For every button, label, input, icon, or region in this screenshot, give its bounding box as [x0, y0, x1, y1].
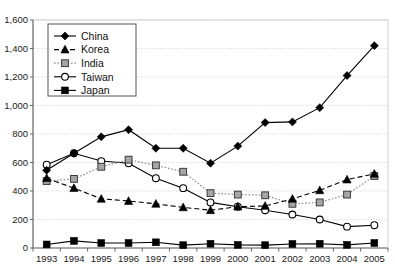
data-point-taiwan-2004	[344, 223, 351, 230]
legend-label-china: China	[81, 30, 109, 42]
data-point-japan-1999	[207, 240, 214, 247]
data-point-india-2000	[234, 191, 241, 198]
y-axis-tick-label: 600	[12, 157, 28, 168]
data-point-india-1997	[152, 162, 159, 169]
data-point-china-1999	[207, 159, 215, 167]
data-point-india-1995	[98, 163, 105, 170]
legend-marker-india	[62, 60, 69, 67]
x-axis-tick-label: 1993	[36, 253, 57, 264]
data-point-china-1997	[152, 144, 160, 152]
y-axis-tick-label: 0	[23, 242, 28, 253]
y-axis-tick-label: 200	[12, 214, 28, 225]
data-point-korea-2002	[288, 195, 296, 203]
legend-marker-japan	[62, 87, 69, 94]
data-point-taiwan-2003	[316, 216, 323, 223]
series-japan	[43, 237, 377, 248]
y-axis-tick-label: 1,400	[4, 43, 28, 54]
y-axis-tick-label: 400	[12, 185, 28, 196]
data-point-taiwan-2002	[289, 211, 296, 218]
x-axis-tick-label: 1996	[118, 253, 139, 264]
data-point-japan-2001	[262, 242, 269, 249]
x-axis-tick-label: 1999	[200, 253, 221, 264]
data-point-korea-1995	[97, 195, 105, 203]
data-point-japan-2000	[234, 241, 241, 248]
x-axis-ticks: 1993199419951996199719981999200020012002…	[33, 248, 388, 264]
data-point-korea-2003	[316, 186, 324, 194]
data-point-japan-2002	[289, 241, 296, 248]
data-point-taiwan-2005	[371, 222, 378, 229]
x-axis-tick-label: 1994	[63, 253, 84, 264]
data-point-china-1993	[43, 166, 51, 174]
y-axis-tick-label: 1,200	[4, 71, 28, 82]
data-point-japan-1998	[180, 242, 187, 249]
data-point-india-1999	[207, 190, 214, 197]
data-point-korea-1994	[70, 184, 78, 192]
legend-label-india: India	[81, 57, 104, 69]
data-point-china-2002	[288, 118, 296, 126]
data-point-taiwan-1999	[207, 199, 214, 206]
data-point-japan-1993	[43, 241, 50, 248]
data-point-japan-1995	[98, 240, 105, 247]
data-point-india-2004	[344, 191, 351, 198]
x-axis-tick-label: 1997	[145, 253, 166, 264]
y-axis-tick-label: 800	[12, 128, 28, 139]
data-point-china-1996	[125, 126, 133, 134]
legend-marker-taiwan	[62, 73, 69, 80]
y-axis-tick-label: 1,000	[4, 100, 28, 111]
data-point-india-2003	[316, 199, 323, 206]
data-point-taiwan-1997	[152, 175, 159, 182]
x-axis-tick-label: 2004	[336, 253, 357, 264]
legend-label-taiwan: Taiwan	[81, 71, 114, 83]
data-point-japan-2004	[344, 241, 351, 248]
data-point-china-1998	[179, 144, 187, 152]
data-point-china-1994	[70, 149, 78, 157]
data-point-japan-1996	[125, 240, 132, 247]
chart-canvas: 02004006008001,0001,2001,4001,6001993199…	[0, 0, 395, 271]
x-axis-tick-label: 1998	[173, 253, 194, 264]
data-point-india-1994	[71, 175, 78, 182]
x-axis-tick-label: 2005	[364, 253, 385, 264]
x-axis-tick-label: 2001	[255, 253, 276, 264]
data-point-taiwan-1998	[180, 185, 187, 192]
data-point-japan-2005	[371, 240, 378, 247]
legend: ChinaKoreaIndiaTaiwanJapan	[48, 24, 136, 96]
x-axis-tick-label: 2003	[309, 253, 330, 264]
data-point-japan-1994	[71, 237, 78, 244]
y-axis-tick-label: 1,600	[4, 14, 28, 25]
data-point-japan-2003	[316, 240, 323, 247]
line-chart: 02004006008001,0001,2001,4001,6001993199…	[0, 0, 395, 271]
x-axis-tick-label: 2000	[227, 253, 248, 264]
data-point-japan-1997	[152, 239, 159, 246]
data-point-korea-1997	[152, 200, 160, 208]
x-axis-tick-label: 2002	[282, 253, 303, 264]
data-point-india-1998	[180, 168, 187, 175]
data-point-india-2001	[262, 192, 269, 199]
data-point-india-1996	[125, 156, 132, 163]
legend-label-japan: Japan	[81, 84, 110, 96]
x-axis-tick-label: 1995	[91, 253, 112, 264]
legend-label-korea: Korea	[81, 43, 109, 55]
